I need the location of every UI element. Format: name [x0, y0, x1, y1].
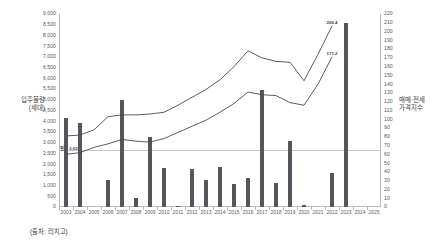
- right-axis-tick-label: 40: [384, 169, 390, 174]
- x-axis-tick-label: 2020: [299, 211, 310, 216]
- right-axis-tick-label: 160: [384, 64, 393, 69]
- right-axis-tick-label: 30: [384, 178, 390, 183]
- left-axis-tick-label: 500: [47, 194, 56, 199]
- x-axis-tickmark: [185, 207, 186, 210]
- right-axis-tick-label: 50: [384, 161, 390, 166]
- right-axis-title: 매매·전세 가격지수: [399, 96, 425, 112]
- x-axis-tick-label: 2012: [187, 211, 198, 216]
- right-axis-title-line1: 매매·전세: [399, 96, 425, 104]
- right-axis-tick-label: 70: [384, 143, 390, 148]
- right-axis-tick-label: 130: [384, 90, 393, 95]
- left-axis-tick-label: 4,000: [43, 119, 56, 124]
- x-axis-tickmark: [157, 207, 158, 210]
- x-axis-tickmark: [213, 207, 214, 210]
- left-axis-tick-label: 3,000: [43, 140, 56, 145]
- x-axis-tick-label: 2018: [271, 211, 282, 216]
- x-axis-tickmark: [199, 207, 200, 210]
- left-axis-tick-label: 6,500: [43, 65, 56, 70]
- left-axis-tick-label: 8,000: [43, 33, 56, 38]
- right-axis-tick-label: 170: [384, 55, 393, 60]
- x-axis-tick-label: 2024: [355, 211, 366, 216]
- right-axis-tick-label: 200: [384, 29, 393, 34]
- x-axis-tick-label: 2009: [145, 211, 156, 216]
- x-axis-tick-label: 2016: [243, 211, 254, 216]
- left-axis-title-line1: 입주물량: [3, 96, 45, 104]
- left-axis-tick-label: 3,500: [43, 129, 56, 134]
- left-axis-tick-label: 7,500: [43, 44, 56, 49]
- x-axis-tick-label: 2023: [341, 211, 352, 216]
- x-axis-tick-label: 2015: [229, 211, 240, 216]
- x-axis-tickmark: [283, 207, 284, 210]
- x-axis-tick-label: 2013: [201, 211, 212, 216]
- chart-root: 입주물량 (세대) 매매·전세 가격지수 05001,0001,5002,000…: [0, 0, 438, 246]
- x-axis-tickmark: [129, 207, 130, 210]
- x-axis-tickmark: [339, 207, 340, 210]
- right-axis-tick-label: 120: [384, 99, 393, 104]
- line-end-value-label: 171.2: [327, 51, 338, 56]
- x-axis-tickmark: [325, 207, 326, 210]
- x-axis-tick-label: 2019: [285, 211, 296, 216]
- right-axis-tick-label: 0: [384, 204, 387, 209]
- right-axis-title-line2: 가격지수: [399, 104, 425, 112]
- x-axis-tick-label: 2025: [369, 211, 380, 216]
- left-axis-tick-label: 4,500: [43, 108, 56, 113]
- left-axis-tick-label: 0: [53, 204, 56, 209]
- x-axis-tick-label: 2003: [61, 211, 72, 216]
- right-axis-tick-label: 80: [384, 134, 390, 139]
- left-axis-tick-label: 1,500: [43, 172, 56, 177]
- x-axis-tickmark: [73, 207, 74, 210]
- right-axis-tick-label: 140: [384, 82, 393, 87]
- left-axis-tick-label: 8,500: [43, 22, 56, 27]
- x-axis-tick-label: 2022: [327, 211, 338, 216]
- right-axis-tick-label: 180: [384, 46, 393, 51]
- x-axis-tick-label: 2005: [89, 211, 100, 216]
- x-axis-tickmark: [171, 207, 172, 210]
- x-axis-tick-label: 2017: [257, 211, 268, 216]
- left-axis-title: 입주물량 (세대): [3, 96, 45, 112]
- line-path: [66, 57, 332, 155]
- x-axis-tickmark: [101, 207, 102, 210]
- x-axis-tickmark: [241, 207, 242, 210]
- x-axis-tickmark: [255, 207, 256, 210]
- left-axis-tick-label: 6,000: [43, 76, 56, 81]
- right-axis-tick-label: 190: [384, 38, 393, 43]
- x-axis-tick-label: 2008: [131, 211, 142, 216]
- x-axis-tick-label: 2007: [117, 211, 128, 216]
- x-axis-tickmark: [297, 207, 298, 210]
- left-axis-tick-label: 2,500: [43, 151, 56, 156]
- x-axis-tickmark: [227, 207, 228, 210]
- line-series: [59, 14, 381, 207]
- right-axis-tick-label: 220: [384, 11, 393, 16]
- left-axis-tick-label: 5,500: [43, 86, 56, 91]
- x-axis-tick-label: 2006: [103, 211, 114, 216]
- x-axis-tickmark: [353, 207, 354, 210]
- x-axis-tickmark: [311, 207, 312, 210]
- x-axis-tickmark: [269, 207, 270, 210]
- right-axis-tick-label: 100: [384, 117, 393, 122]
- x-axis-tickmark: [59, 207, 60, 210]
- plot-area: 05001,0001,5002,0002,5003,0003,5004,0004…: [59, 14, 381, 207]
- right-axis-tick-label: 150: [384, 73, 393, 78]
- x-axis-tick-label: 2004: [75, 211, 86, 216]
- right-axis-tick-label: 20: [384, 187, 390, 192]
- left-axis-tick-label: 2,000: [43, 162, 56, 167]
- source-note: (출처: 리치고): [30, 227, 68, 236]
- x-axis-tick-label: 2021: [313, 211, 324, 216]
- line-end-value-label: 206.4: [327, 20, 338, 25]
- left-axis-tick-label: 5,000: [43, 97, 56, 102]
- right-axis-tick-label: 110: [384, 108, 392, 113]
- x-axis-tick-label: 2011: [173, 211, 184, 216]
- right-axis-tick-label: 90: [384, 125, 390, 130]
- left-axis-tick-label: 7,000: [43, 54, 56, 59]
- left-axis-title-line2: (세대): [3, 104, 45, 112]
- line-path: [66, 26, 332, 136]
- x-axis-tick-label: 2010: [159, 211, 170, 216]
- left-axis-tick-label: 9,000: [43, 11, 56, 16]
- x-axis-tickmark: [115, 207, 116, 210]
- right-axis-tick-label: 210: [384, 20, 393, 25]
- x-axis-tick-label: 2014: [215, 211, 226, 216]
- right-axis-tick-label: 60: [384, 152, 390, 157]
- x-axis-tickmark: [367, 207, 368, 210]
- x-axis-tickmark: [87, 207, 88, 210]
- left-axis-tick-label: 1,000: [43, 183, 56, 188]
